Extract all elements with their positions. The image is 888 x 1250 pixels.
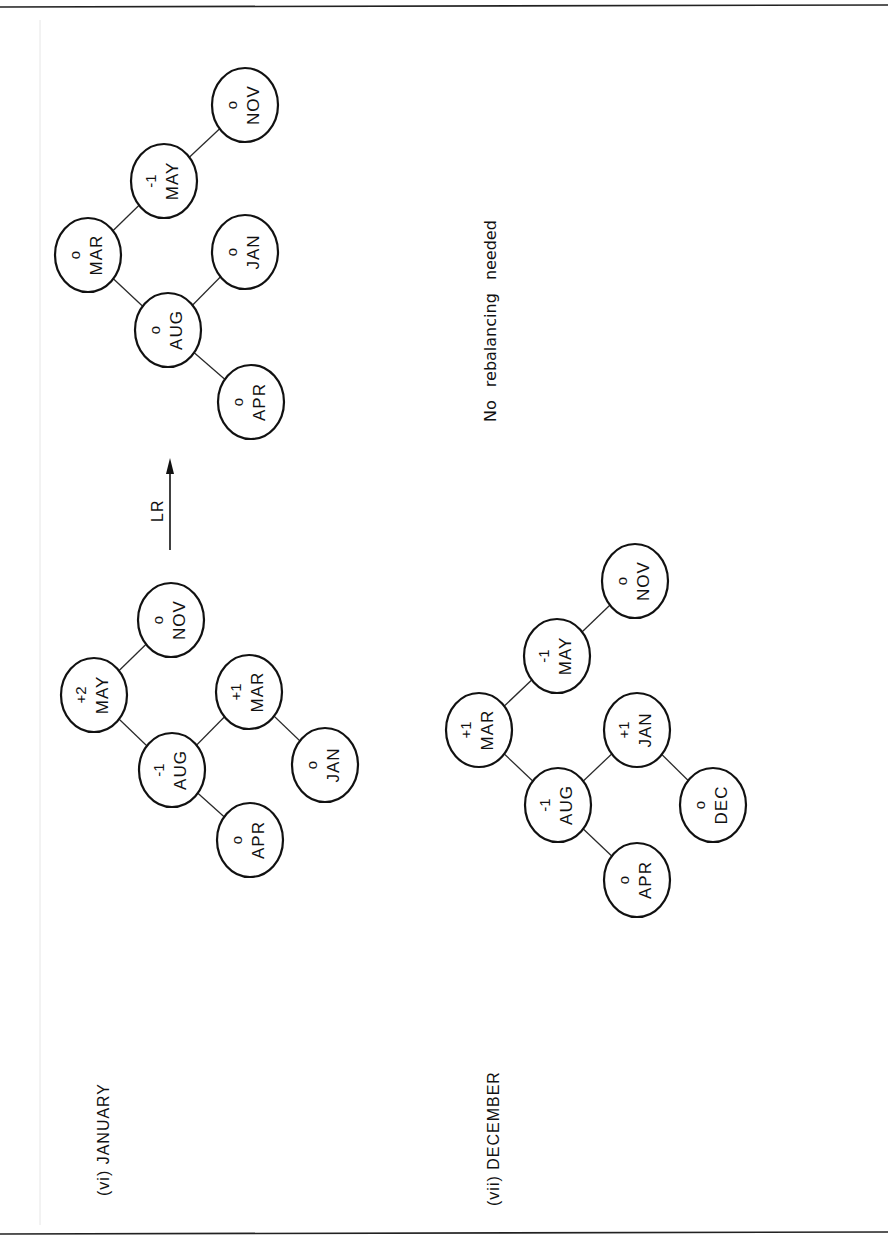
tree-node-aug: -1AUG — [525, 768, 591, 842]
balance-factor: -1 — [142, 174, 159, 187]
tree-node-aug: oAUG — [135, 293, 201, 367]
node-key: DEC — [712, 786, 731, 825]
tree-node-may: +2MAY — [61, 658, 127, 732]
balance-factor: +1 — [615, 721, 632, 738]
tree-node-jan: +1JAN — [604, 693, 670, 767]
rotation-label: LR — [149, 500, 166, 522]
node-key: MAR — [478, 710, 497, 751]
tree-node-nov: oNOV — [602, 544, 668, 618]
tree-node-apr: oAPR — [218, 365, 284, 439]
tree-node-mar: +1MAR — [216, 655, 282, 729]
balance-factor: -1 — [150, 763, 167, 776]
balance-factor: o — [146, 326, 163, 334]
node-key: AUG — [557, 785, 576, 825]
balance-factor: o — [223, 101, 240, 109]
node-key: MAY — [556, 637, 575, 676]
arrowhead-icon — [166, 458, 174, 474]
tree-node-dec: oDEC — [680, 768, 746, 842]
node-key: NOV — [170, 600, 189, 640]
node-key: AUG — [171, 750, 190, 790]
tree-node-apr: oAPR — [217, 803, 283, 877]
balance-factor: o — [66, 251, 83, 259]
balance-factor: +2 — [72, 686, 89, 703]
node-key: AUG — [167, 310, 186, 350]
balance-factor: o — [691, 801, 708, 809]
no-rebalancing-note: No rebalancing needed — [481, 220, 500, 422]
balance-factor: +1 — [227, 683, 244, 700]
node-key: MAY — [93, 676, 112, 715]
avl-tree-diagram: +2MAY-1AUGoNOVoAPR+1MARoJAN oMARoAUG-1MA… — [0, 0, 888, 1250]
rotation-arrow: LR — [149, 458, 174, 550]
balance-factor: +1 — [457, 721, 474, 738]
bottom-rule — [0, 1232, 888, 1234]
tree-node-jan: oJAN — [212, 215, 278, 289]
tree-node-may: -1MAY — [131, 144, 197, 218]
node-key: MAR — [248, 672, 267, 713]
tree-december: +1MAR-1AUG-1MAYoAPR+1JANoDECoNOV — [446, 544, 746, 917]
tree-january-after: oMARoAUG-1MAYoAPRoJANoNOV — [55, 68, 284, 439]
node-key: NOV — [244, 85, 263, 125]
balance-factor: o — [613, 577, 630, 585]
balance-factor: -1 — [535, 649, 552, 662]
tree-node-apr: oAPR — [604, 843, 670, 917]
node-key: APR — [636, 861, 655, 899]
balance-factor: o — [223, 248, 240, 256]
tree-node-aug: -1AUG — [139, 733, 205, 807]
tree-node-mar: +1MAR — [446, 693, 512, 767]
node-key: JAN — [324, 747, 343, 782]
node-key: APR — [249, 821, 268, 859]
node-key: MAY — [163, 162, 182, 201]
balance-factor: o — [229, 398, 246, 406]
tree-node-nov: oNOV — [138, 583, 204, 657]
tree-node-nov: oNOV — [212, 68, 278, 142]
tree-node-jan: oJAN — [292, 728, 358, 802]
balance-factor: -1 — [536, 798, 553, 811]
section-label-january: (vi) JANUARY — [95, 1083, 112, 1196]
balance-factor: o — [615, 876, 632, 884]
node-key: MAR — [87, 235, 106, 276]
section-label-december: (vii) DECEMBER — [485, 1071, 502, 1206]
balance-factor: o — [149, 616, 166, 624]
top-rule — [0, 5, 888, 7]
tree-node-may: -1MAY — [524, 619, 590, 693]
balance-factor: o — [303, 761, 320, 769]
node-key: NOV — [634, 561, 653, 601]
node-key: APR — [250, 383, 269, 421]
tree-node-mar: oMAR — [55, 218, 121, 292]
node-key: JAN — [244, 234, 263, 269]
balance-factor: o — [228, 836, 245, 844]
tree-january-before: +2MAY-1AUGoNOVoAPR+1MARoJAN — [61, 583, 358, 877]
node-key: JAN — [636, 712, 655, 747]
